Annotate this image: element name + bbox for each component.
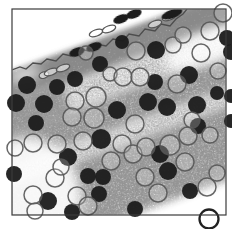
tissue-illustration — [0, 0, 235, 229]
dark-cell — [108, 101, 126, 119]
open-cell — [160, 135, 180, 155]
open-cell — [176, 153, 194, 171]
dark-cell — [67, 71, 83, 87]
open-cell — [48, 135, 66, 153]
dark-cell — [95, 169, 111, 185]
dark-cell — [91, 129, 111, 149]
open-cell — [66, 92, 84, 110]
open-cell — [127, 42, 145, 60]
open-cell — [114, 68, 132, 86]
open-cell — [24, 186, 42, 204]
open-cell — [192, 44, 210, 62]
dark-cell — [188, 96, 206, 114]
dark-cell — [182, 183, 198, 199]
open-cell — [102, 152, 120, 170]
dark-cell — [35, 95, 53, 113]
dark-cell — [49, 79, 65, 95]
open-cell — [74, 132, 92, 150]
open-cell — [63, 108, 81, 126]
dark-cell — [80, 168, 96, 184]
open-cell — [175, 27, 191, 43]
open-cell — [168, 75, 186, 93]
open-cell — [210, 63, 226, 79]
bold-open-cell — [200, 210, 219, 229]
open-cell — [179, 127, 197, 145]
open-cell — [184, 112, 200, 128]
open-cell — [137, 138, 155, 156]
dark-cell — [115, 35, 129, 49]
dark-cell — [64, 204, 80, 220]
open-cell — [79, 46, 93, 60]
open-cell — [53, 159, 69, 175]
open-cell — [27, 203, 43, 219]
open-cell — [7, 140, 23, 156]
open-cell — [131, 68, 149, 86]
dark-cell — [7, 94, 25, 112]
open-cell — [126, 115, 144, 133]
open-cell — [86, 87, 106, 107]
open-cell — [214, 4, 232, 22]
dark-cell — [158, 98, 176, 116]
open-cell — [202, 127, 218, 143]
open-cell — [84, 108, 104, 128]
open-cell — [201, 22, 219, 40]
dark-cell — [6, 166, 22, 182]
dark-cell — [18, 76, 36, 94]
dark-cell — [28, 115, 44, 131]
dark-cell — [147, 41, 165, 59]
micrograph-figure — [0, 0, 235, 229]
open-cell — [209, 165, 225, 181]
open-cell — [24, 134, 42, 152]
dark-cell — [159, 162, 177, 180]
open-cell — [149, 184, 167, 202]
dark-cell — [210, 86, 224, 100]
open-cell — [79, 197, 97, 215]
dark-cell — [139, 93, 157, 111]
open-cell — [136, 168, 154, 186]
